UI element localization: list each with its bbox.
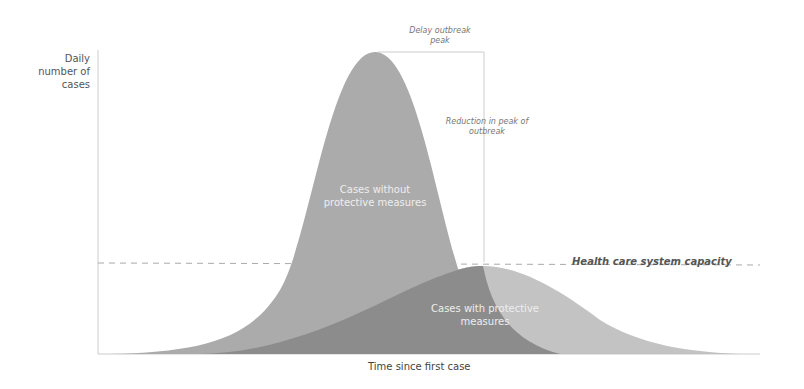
series-label-line: protective measures (310, 196, 440, 209)
annotation-line: Reduction in peak of (432, 117, 542, 127)
ylabel-line: number of (10, 65, 90, 78)
annotation-line: outbreak (432, 127, 542, 137)
ylabel-line: Daily (10, 52, 90, 65)
without-measures-label: Cases without protective measures (310, 183, 440, 209)
capacity-label: Health care system capacity (572, 256, 732, 267)
y-axis-label: Daily number of cases (10, 52, 90, 91)
with-measures-label: Cases with protective measures (420, 302, 550, 328)
delay-annotation: Delay outbreak peak (400, 26, 480, 46)
ylabel-line: cases (10, 78, 90, 91)
reduction-annotation: Reduction in peak of outbreak (432, 117, 542, 137)
annotation-line: Delay outbreak (400, 26, 480, 36)
annotation-line: peak (400, 36, 480, 46)
series-label-line: Cases without (310, 183, 440, 196)
x-axis-label: Time since first case (368, 361, 471, 372)
series-label-line: measures (420, 315, 550, 328)
series-label-line: Cases with protective (420, 302, 550, 315)
